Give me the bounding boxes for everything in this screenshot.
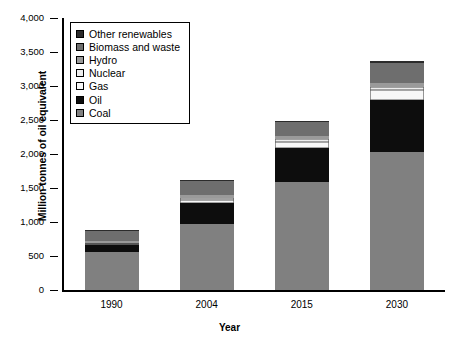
y-axis-tick — [50, 86, 58, 87]
chart-figure: Million tonnes of oil equivalent 05001,0… — [0, 0, 459, 343]
y-axis-tick-label: 2,500 — [2, 114, 44, 125]
y-axis-tick-label: 500 — [2, 250, 44, 261]
bar-1990 — [85, 230, 139, 290]
bar-2015 — [275, 121, 329, 290]
legend-swatch-nuclear — [76, 69, 84, 77]
y-axis-tick — [50, 154, 58, 155]
bar-segment-coal — [85, 252, 139, 290]
y-axis-tick-label: 1,000 — [2, 216, 44, 227]
legend-item: Coal — [76, 106, 180, 119]
bar-segment-coal — [275, 182, 329, 290]
legend-swatch-hydro — [76, 56, 84, 64]
legend-item-label: Nuclear — [89, 67, 125, 79]
y-axis-tick-label: 1,500 — [2, 182, 44, 193]
legend-item: Other renewables — [76, 27, 180, 40]
y-axis-tick-label: 2,000 — [2, 148, 44, 159]
y-axis-tick-label: 3,500 — [2, 46, 44, 57]
y-axis-tick — [50, 222, 58, 223]
bar-segment-gas — [370, 90, 424, 99]
legend-item-label: Oil — [89, 94, 102, 106]
bar-segment-biomass-and-waste — [275, 122, 329, 136]
y-axis-tick-label: 0 — [2, 284, 44, 295]
legend-swatch-gas — [76, 82, 84, 90]
legend-item-label: Hydro — [89, 54, 117, 66]
legend-item: Hydro — [76, 53, 180, 66]
bar-2004 — [180, 180, 234, 290]
bar-segment-oil — [180, 203, 234, 224]
legend-item: Oil — [76, 93, 180, 106]
bar-segment-coal — [370, 152, 424, 290]
x-axis-tick-label: 1990 — [72, 299, 152, 310]
legend-item: Biomass and waste — [76, 40, 180, 53]
y-axis-tick — [50, 188, 58, 189]
bar-segment-coal — [180, 224, 234, 290]
x-axis-tick-label: 2004 — [167, 299, 247, 310]
bar-segment-biomass-and-waste — [370, 63, 424, 83]
legend-item: Gas — [76, 80, 180, 93]
y-axis-tick — [50, 290, 58, 291]
legend-swatch-other-renewables — [76, 30, 84, 38]
y-axis-tick — [50, 256, 58, 257]
y-axis-tick-label: 4,000 — [2, 12, 44, 23]
y-axis-title: Million tonnes of oil equivalent — [36, 26, 48, 266]
legend-swatch-oil — [76, 96, 84, 104]
bar-segment-oil — [85, 245, 139, 252]
legend-swatch-biomass-and-waste — [76, 43, 84, 51]
bar-segment-oil — [370, 100, 424, 152]
y-axis-tick-label: 3,000 — [2, 80, 44, 91]
legend-item-label: Other renewables — [89, 28, 172, 40]
legend-item: Nuclear — [76, 67, 180, 80]
legend-swatch-coal — [76, 109, 84, 117]
bar-segment-biomass-and-waste — [180, 181, 234, 196]
legend-item-label: Gas — [89, 80, 108, 92]
x-axis-tick-label: 2030 — [357, 299, 437, 310]
bar-segment-biomass-and-waste — [85, 231, 139, 241]
y-axis-tick — [50, 120, 58, 121]
y-axis-tick — [50, 18, 58, 19]
y-axis-tick — [50, 52, 58, 53]
x-axis-tick-label: 2015 — [262, 299, 342, 310]
chart-legend: Other renewablesBiomass and wasteHydroNu… — [70, 22, 190, 124]
legend-item-label: Biomass and waste — [89, 41, 180, 53]
x-axis-title: Year — [0, 322, 459, 333]
legend-item-label: Coal — [89, 107, 111, 119]
bar-2030 — [370, 61, 424, 290]
bar-segment-oil — [275, 148, 329, 182]
